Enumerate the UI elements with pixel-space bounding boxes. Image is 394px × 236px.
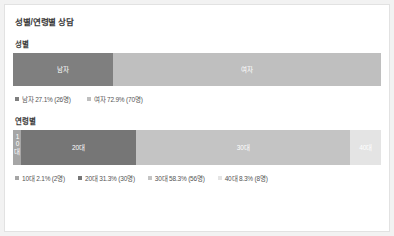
gender-age-consultation-card: 성별/연령별 상담 성별 남자 여자 남자 27.1% (26명) 여자 72.… — [4, 4, 390, 232]
age-legend: 10대 2.1% (2명) 20대 31.3% (30명) 30대 58.3% … — [15, 173, 381, 183]
gender-section-label: 성별 — [15, 38, 381, 49]
legend-swatch-icon — [148, 176, 152, 180]
legend-swatch-icon — [15, 176, 19, 180]
page-title: 성별/연령별 상담 — [15, 15, 381, 27]
age-bar-segment-20s[interactable]: 20대 — [21, 130, 136, 165]
age-stacked-bar: 10대 20대 30대 40대 — [13, 130, 381, 165]
gender-bar-segment-female[interactable]: 여자 — [113, 53, 381, 86]
legend-label-female: 여자 72.9% (70명) — [94, 94, 143, 104]
legend-item-10s[interactable]: 10대 2.1% (2명) — [15, 173, 65, 183]
legend-label-10s: 10대 2.1% (2명) — [22, 173, 65, 183]
gender-legend: 남자 27.1% (26명) 여자 72.9% (70명) — [15, 94, 381, 104]
age-bar-segment-10s[interactable]: 10대 — [13, 130, 21, 165]
legend-item-female[interactable]: 여자 72.9% (70명) — [87, 94, 143, 104]
legend-label-male: 남자 27.1% (26명) — [22, 94, 71, 104]
gender-section: 성별 남자 여자 남자 27.1% (26명) 여자 72.9% (70명) — [13, 38, 381, 104]
legend-swatch-icon — [87, 97, 91, 101]
legend-item-40s[interactable]: 40대 8.3% (8명) — [218, 173, 268, 183]
legend-swatch-icon — [78, 176, 82, 180]
legend-item-30s[interactable]: 30대 58.3% (56명) — [148, 173, 205, 183]
age-section: 연령별 10대 20대 30대 40대 10대 2.1% (2명) 20대 31… — [13, 115, 381, 183]
legend-label-20s: 20대 31.3% (30명) — [85, 173, 135, 183]
gender-bar-segment-male[interactable]: 남자 — [13, 53, 113, 86]
gender-stacked-bar: 남자 여자 — [13, 53, 381, 86]
legend-label-40s: 40대 8.3% (8명) — [225, 173, 268, 183]
legend-swatch-icon — [218, 176, 222, 180]
age-bar-segment-30s[interactable]: 30대 — [136, 130, 351, 165]
legend-item-male[interactable]: 남자 27.1% (26명) — [15, 94, 71, 104]
age-section-label: 연령별 — [15, 115, 381, 126]
legend-swatch-icon — [15, 97, 19, 101]
legend-item-20s[interactable]: 20대 31.3% (30명) — [78, 173, 135, 183]
legend-label-30s: 30대 58.3% (56명) — [155, 173, 205, 183]
age-bar-segment-40s[interactable]: 40대 — [350, 130, 381, 165]
